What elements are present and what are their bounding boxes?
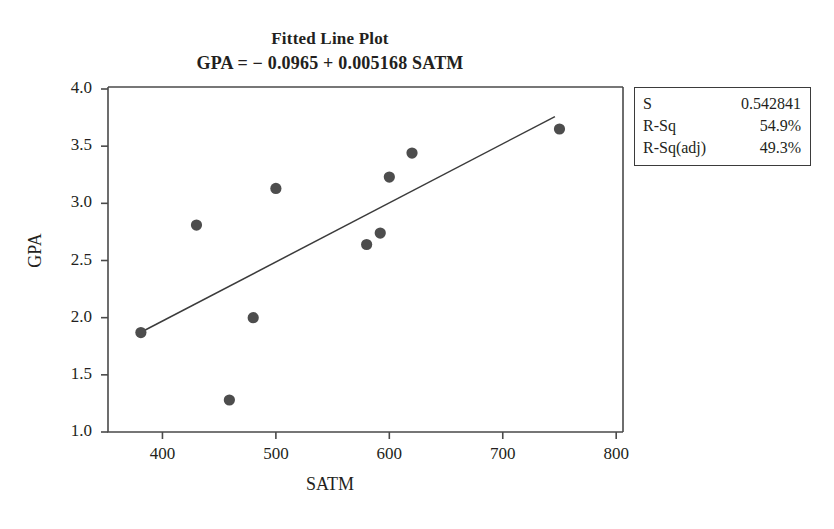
stats-row: R-Sq54.9% xyxy=(635,115,810,137)
data-point-7 xyxy=(384,171,395,182)
fitted-line-plot-figure: Fitted Line Plot GPA = − 0.0965 + 0.0051… xyxy=(0,0,834,529)
y-tick-label-3.5: 3.5 xyxy=(50,135,92,155)
x-axis-title: SATM xyxy=(0,474,660,495)
x-tick-label-600: 600 xyxy=(359,444,419,464)
stats-row: S0.542841 xyxy=(635,93,810,115)
stats-value: 49.3% xyxy=(760,137,801,159)
x-tick-label-400: 400 xyxy=(132,444,192,464)
data-point-0 xyxy=(135,327,146,338)
stats-key: R-Sq xyxy=(643,115,676,137)
axis-lines xyxy=(108,87,623,432)
y-tick-label-3.0: 3.0 xyxy=(50,192,92,212)
x-tick-label-800: 800 xyxy=(586,444,646,464)
stats-row: R-Sq(adj)49.3% xyxy=(635,137,810,159)
plot-area: 1.01.52.02.53.03.54.0 400500600700800 GP… xyxy=(0,0,660,529)
data-point-3 xyxy=(248,312,259,323)
ticks-group xyxy=(101,89,616,439)
stats-value: 0.542841 xyxy=(741,93,801,115)
statistics-box: S0.542841R-Sq54.9%R-Sq(adj)49.3% xyxy=(634,87,811,166)
data-points-group xyxy=(135,123,565,405)
stats-key: R-Sq(adj) xyxy=(643,137,706,159)
data-point-6 xyxy=(375,227,386,238)
x-tick-label-700: 700 xyxy=(473,444,533,464)
data-point-2 xyxy=(224,394,235,405)
data-point-5 xyxy=(361,239,372,250)
y-tick-label-2.5: 2.5 xyxy=(50,250,92,270)
y-axis-title: GPA xyxy=(25,211,46,291)
plot-svg xyxy=(0,0,660,529)
fit-line-segment xyxy=(141,117,555,333)
stats-value: 54.9% xyxy=(760,115,801,137)
regression-line xyxy=(141,117,555,333)
data-point-9 xyxy=(554,123,565,134)
y-tick-label-2.0: 2.0 xyxy=(50,307,92,327)
y-tick-label-1.5: 1.5 xyxy=(50,364,92,384)
data-point-8 xyxy=(406,147,417,158)
y-tick-label-4.0: 4.0 xyxy=(50,78,92,98)
data-point-4 xyxy=(270,183,281,194)
stats-key: S xyxy=(643,93,652,115)
axes-group xyxy=(108,87,623,432)
data-point-1 xyxy=(191,219,202,230)
y-tick-label-1.0: 1.0 xyxy=(50,421,92,441)
x-tick-label-500: 500 xyxy=(246,444,306,464)
